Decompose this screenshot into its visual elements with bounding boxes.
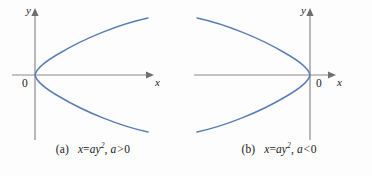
caption-b-label: (b): [242, 143, 256, 155]
caption-a-equals: =: [83, 143, 90, 155]
x-axis-arrowhead-a: [146, 71, 154, 78]
panel-b: y x 0 (b) x=ay2, a<0: [186, 0, 372, 176]
plot-a: y x 0: [0, 0, 186, 145]
panel-a: y x 0 (a) x=ay2, a>0: [0, 0, 186, 176]
y-axis-label-b: y: [300, 4, 306, 16]
y-axis-arrowhead-a: [31, 8, 38, 16]
caption-a-coef: ay: [90, 143, 101, 155]
x-axis-label-a: x: [154, 76, 160, 88]
plot-b: y x 0: [186, 0, 372, 145]
caption-b-comma: ,: [291, 143, 294, 155]
caption-a: (a) x=ay2, a>0: [0, 143, 186, 155]
caption-b-relation: <: [303, 143, 311, 155]
origin-label-b: 0: [316, 77, 322, 89]
x-axis-arrowhead-b: [328, 71, 336, 78]
y-axis-label-a: y: [25, 4, 31, 16]
caption-b-equals: =: [269, 143, 276, 155]
caption-a-value: 0: [124, 143, 130, 155]
y-axis-arrowhead-b: [306, 8, 313, 16]
parabola-figure: y x 0 (a) x=ay2, a>0 y x 0 (b): [0, 0, 372, 176]
caption-b-coef: ay: [276, 143, 287, 155]
caption-a-label: (a): [56, 143, 69, 155]
x-axis-label-b: x: [336, 76, 342, 88]
caption-b-value: 0: [311, 143, 317, 155]
origin-label-a: 0: [22, 77, 28, 89]
caption-a-comma: ,: [105, 143, 108, 155]
caption-b: (b) x=ay2, a<0: [186, 143, 372, 155]
